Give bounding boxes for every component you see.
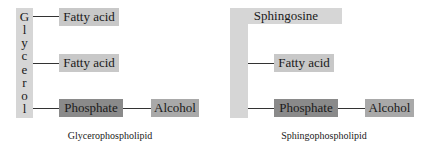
phosphate-box: Phosphate [59,99,123,117]
fatty-acid-box-2: Fatty acid [59,54,119,72]
glycerol-backbone: G l y c e r o l [16,8,33,118]
connector-line [33,108,59,109]
caption: Glycerophospholipid [48,130,172,141]
glycerol-letter: r [22,77,26,89]
connector-line [33,16,59,17]
sphingosine-vertical-bar [230,8,248,118]
fatty-acid-box: Fatty acid [274,54,334,72]
caption: Sphingophospholipid [262,130,386,141]
sphingosine-backbone: Sphingosine [230,8,342,24]
connector-line [123,108,151,109]
connector-line [33,63,59,64]
connector-line [248,63,274,64]
glycerol-letter: l [23,103,27,115]
connector-line [338,108,365,109]
glycerol-letter: c [22,50,28,62]
fatty-acid-box-1: Fatty acid [59,8,119,26]
glycerol-letter: e [22,64,28,76]
phosphate-box: Phosphate [274,99,338,117]
alcohol-box: Alcohol [365,99,414,117]
connector-line [248,108,274,109]
alcohol-box: Alcohol [151,99,199,117]
